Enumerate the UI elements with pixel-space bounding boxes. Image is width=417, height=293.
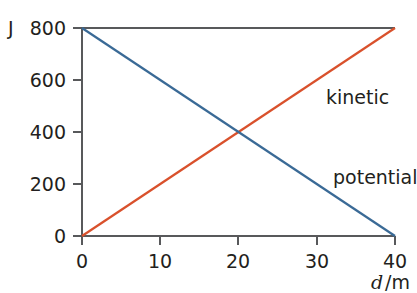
y-tick-label-200: 200 [30, 173, 66, 195]
y-tick-label-400: 400 [30, 121, 66, 143]
x-axis-symbol: d [371, 271, 383, 293]
x-axis-unit: /m [385, 271, 410, 293]
x-tick-label-0: 0 [76, 250, 88, 272]
x-axis-title: d/m [371, 271, 410, 293]
x-tick-label-30: 30 [305, 250, 329, 272]
x-tick-label-10: 10 [148, 250, 172, 272]
y-tick-label-0: 0 [54, 225, 66, 247]
y-tick-label-600: 600 [30, 69, 66, 91]
series-label-potential: potential [333, 166, 417, 188]
energy-distance-chart: J 800 600 400 200 0 0 10 20 30 40 d/m ki… [0, 0, 417, 293]
chart-canvas: J 800 600 400 200 0 0 10 20 30 40 d/m ki… [0, 0, 417, 293]
x-tick-label-40: 40 [383, 250, 407, 272]
x-tick-label-20: 20 [226, 250, 250, 272]
y-tick-label-800: 800 [30, 17, 66, 39]
series-label-kinetic: kinetic [326, 86, 389, 108]
y-axis-unit-label: J [7, 17, 14, 39]
